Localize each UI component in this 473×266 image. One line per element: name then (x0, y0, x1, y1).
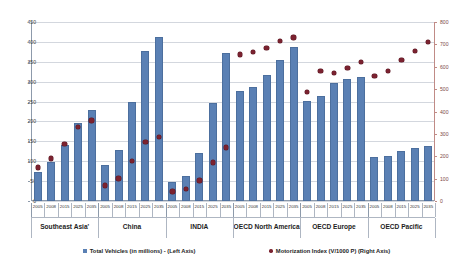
year-separator (395, 203, 396, 217)
year-separator (354, 203, 355, 217)
year-separator (220, 203, 221, 217)
bar (88, 110, 96, 201)
left-axis-tick (28, 141, 30, 142)
legend-item-motorization-index: Motorization Index (V/1000 P) (Right Axi… (269, 248, 390, 254)
right-axis-tick-label: 100 (440, 176, 464, 182)
year-tick-label: 2005 (370, 204, 380, 209)
bar (276, 60, 284, 201)
bar (370, 157, 378, 201)
data-point-marker (251, 50, 255, 54)
year-tick-label: 2025 (73, 204, 83, 209)
data-point-marker (143, 140, 147, 144)
data-point-marker (116, 176, 120, 180)
legend-square-icon (83, 249, 87, 253)
chart-legend: Total Vehicles (in millions) - (Left Axi… (0, 244, 473, 258)
year-tick-label: 2005 (235, 204, 245, 209)
year-tick-label: 2025 (208, 204, 218, 209)
data-series-layer (31, 22, 435, 201)
data-point-marker (36, 165, 40, 169)
group-separator-year-band (300, 203, 301, 217)
year-tick-label: 2035 (423, 204, 433, 209)
category-axis: 2005200820152025203520052008201520252035… (31, 203, 435, 217)
bar (61, 145, 69, 201)
year-tick-label: 2025 (275, 204, 285, 209)
right-axis-tick (435, 67, 437, 68)
legend-diamond-icon (269, 249, 272, 252)
group-separator-year-band (166, 203, 167, 217)
group-separator (98, 218, 99, 238)
bar (209, 103, 217, 201)
year-tick-label: 2015 (60, 204, 70, 209)
year-tick-label: 2008 (46, 204, 56, 209)
year-separator (179, 203, 180, 217)
bar (397, 151, 405, 201)
data-point-marker (103, 183, 107, 187)
year-tick-label: 2005 (100, 204, 110, 209)
axis-end-separator (435, 218, 436, 238)
year-tick-label: 2015 (194, 204, 204, 209)
year-tick-label: 2005 (168, 204, 178, 209)
year-separator (85, 203, 86, 217)
data-point-marker (318, 69, 322, 73)
gridline (32, 201, 434, 202)
year-tick-label: 2035 (154, 204, 164, 209)
year-separator (152, 203, 153, 217)
bar (141, 51, 149, 201)
left-axis-tick (28, 62, 30, 63)
bar (424, 146, 432, 201)
group-separator-year-band (233, 203, 234, 217)
year-tick-label: 2015 (329, 204, 339, 209)
data-point-marker (211, 160, 215, 164)
bar (384, 156, 392, 201)
group-label: China (123, 223, 141, 230)
group-separator (368, 218, 369, 238)
year-tick-label: 2035 (356, 204, 366, 209)
bar (155, 37, 163, 201)
axis-end-separator (435, 203, 436, 217)
bar (330, 83, 338, 201)
year-tick-label: 2008 (383, 204, 393, 209)
year-separator (314, 203, 315, 217)
year-tick-label: 2015 (396, 204, 406, 209)
left-axis-tick (28, 161, 30, 162)
legend-item-total-vehicles: Total Vehicles (in millions) - (Left Axi… (83, 248, 196, 254)
year-separator (341, 203, 342, 217)
data-point-marker (426, 40, 430, 44)
left-axis-tick (28, 42, 30, 43)
year-tick-label: 2015 (127, 204, 137, 209)
data-point-marker (332, 71, 336, 75)
year-separator (193, 203, 194, 217)
year-tick-label: 2005 (33, 204, 43, 209)
year-tick-label: 2008 (181, 204, 191, 209)
data-point-marker (130, 159, 134, 163)
data-point-marker (238, 52, 242, 56)
data-point-marker (170, 189, 174, 193)
bar (236, 91, 244, 201)
year-tick-label: 2008 (248, 204, 258, 209)
bar (411, 148, 419, 201)
right-axis-tick (435, 22, 437, 23)
data-point-marker (386, 69, 390, 73)
group-axis: Southeast Asia'ChinaINDIAOECD North Amer… (31, 217, 435, 238)
bar (357, 77, 365, 201)
bar (303, 101, 311, 201)
group-label: INDIA (190, 223, 208, 230)
group-separator-year-band (31, 203, 32, 217)
group-separator (166, 218, 167, 238)
right-axis-tick-label: 0 (440, 198, 464, 204)
year-tick-label: 2035 (221, 204, 231, 209)
data-point-marker (278, 39, 282, 43)
bar (128, 102, 136, 201)
data-point-marker (413, 49, 417, 53)
legend-label-motorization-index: Motorization Index (V/1000 P) (Right Axi… (276, 248, 390, 254)
bar (74, 123, 82, 201)
year-separator (58, 203, 59, 217)
group-label: OECD North America (234, 223, 300, 230)
year-separator (112, 203, 113, 217)
bar (317, 96, 325, 201)
year-tick-label: 2008 (316, 204, 326, 209)
right-axis-tick-label: 200 (440, 153, 464, 159)
data-point-marker (62, 142, 66, 146)
year-separator (125, 203, 126, 217)
year-tick-label: 2025 (410, 204, 420, 209)
